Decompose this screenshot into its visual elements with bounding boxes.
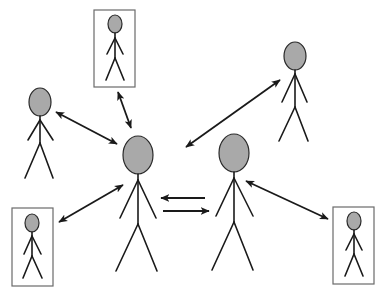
- top-right-person: [279, 42, 308, 141]
- head: [219, 134, 249, 172]
- head: [123, 136, 153, 174]
- head: [347, 212, 361, 230]
- head: [284, 42, 306, 70]
- left-person: [25, 88, 53, 178]
- arrow-b-to-bottom-right-framed: [246, 181, 328, 219]
- communication-network-diagram: [0, 0, 385, 298]
- head: [108, 15, 122, 33]
- arrow-a-to-left: [56, 112, 117, 144]
- bottom-right-framed-person: [333, 207, 374, 284]
- head: [25, 214, 39, 232]
- arrow-a-to-top-framed: [118, 92, 131, 128]
- top-framed-person: [94, 10, 135, 87]
- central-person-a: [116, 136, 157, 271]
- central-person-b: [212, 134, 253, 270]
- arrow-a-to-bottom-left-framed: [59, 185, 123, 222]
- head: [29, 88, 51, 116]
- bottom-left-framed-person: [12, 208, 53, 286]
